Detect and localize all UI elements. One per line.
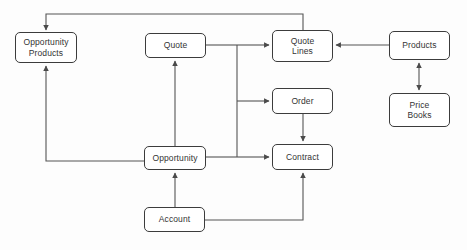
node-account[interactable]: Account <box>144 207 205 232</box>
connector-account-to-contract <box>205 173 303 220</box>
node-opportunity[interactable]: Opportunity <box>144 146 206 170</box>
node-label-order: Order <box>291 96 313 107</box>
node-label-account: Account <box>159 214 190 225</box>
node-price-books[interactable]: Price Books <box>389 93 450 127</box>
connector-quote-lines-to-opportunity-products <box>46 14 303 30</box>
node-label-price-books: Price Books <box>407 100 431 121</box>
node-quote[interactable]: Quote <box>145 33 206 58</box>
node-label-quote-lines: Quote Lines <box>291 36 315 57</box>
node-quote-lines[interactable]: Quote Lines <box>272 30 333 62</box>
diagram-canvas: Opportunity Products Quote Quote Lines P… <box>0 0 467 250</box>
node-label-opportunity-products: Opportunity Products <box>23 37 68 58</box>
node-contract[interactable]: Contract <box>272 144 333 170</box>
node-label-opportunity: Opportunity <box>152 153 197 164</box>
node-products[interactable]: Products <box>389 31 450 60</box>
connector-opportunity-to-opportunity-products <box>46 66 144 161</box>
node-label-contract: Contract <box>286 152 319 163</box>
node-order[interactable]: Order <box>272 88 333 114</box>
node-opportunity-products[interactable]: Opportunity Products <box>15 32 77 63</box>
node-label-products: Products <box>402 40 436 51</box>
node-label-quote: Quote <box>164 40 188 51</box>
